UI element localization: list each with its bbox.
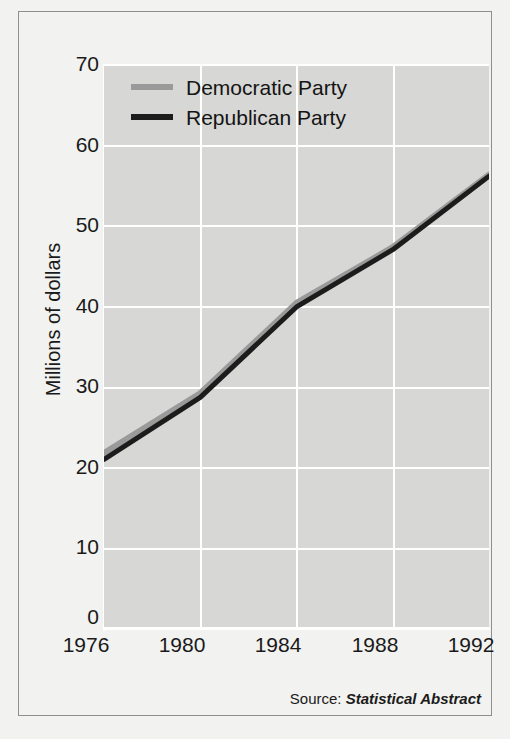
y-axis-title: Millions of dollars (42, 210, 65, 430)
figure-frame: 70 60 50 40 30 20 10 0 Millions of dolla… (18, 11, 492, 716)
legend-swatch-democratic-party (131, 84, 173, 90)
source-note: Source: Statistical Abstract (290, 690, 481, 707)
y-tick-10: 10 (29, 536, 99, 557)
x-tick-1980: 1980 (142, 634, 222, 655)
y-tick-20: 20 (29, 456, 99, 477)
source-prefix: Source: (290, 690, 342, 707)
chart-figure: 70 60 50 40 30 20 10 0 Millions of dolla… (0, 0, 510, 739)
legend-item-republican-party: Republican Party (131, 102, 381, 132)
legend-label-republican-party: Republican Party (186, 107, 346, 128)
legend-swatch-republican-party (131, 114, 173, 120)
legend-label-democratic-party: Democratic Party (186, 77, 347, 98)
source-work: Statistical Abstract (346, 690, 481, 707)
series-lines (104, 64, 489, 629)
y-tick-60: 60 (29, 134, 99, 155)
y-tick-70: 70 (29, 53, 99, 74)
chart-legend: Democratic Party Republican Party (131, 72, 381, 132)
x-tick-1988: 1988 (335, 634, 415, 655)
x-tick-1992: 1992 (431, 634, 510, 655)
series-line-democratic-party (104, 175, 489, 453)
x-tick-1984: 1984 (238, 634, 318, 655)
plot-area: Democratic Party Republican Party (104, 64, 489, 629)
y-tick-0: 0 (29, 606, 99, 627)
x-tick-1976: 1976 (46, 634, 126, 655)
legend-item-democratic-party: Democratic Party (131, 72, 381, 102)
